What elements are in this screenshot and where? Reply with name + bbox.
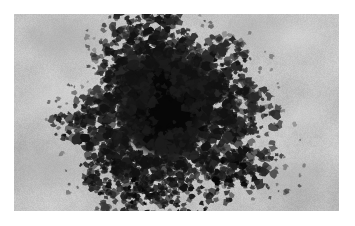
lesion-image-frame xyxy=(14,14,339,211)
dermoscopy-figure: dermoscopy-photograph xyxy=(0,0,355,226)
dermoscopy-photograph xyxy=(14,14,339,211)
